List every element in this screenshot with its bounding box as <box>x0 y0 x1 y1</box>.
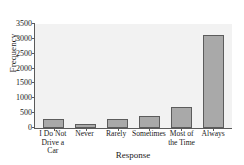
bar-slot <box>70 24 102 128</box>
bar-slot <box>197 24 229 128</box>
bar <box>171 107 192 128</box>
y-tick-label: 3000 <box>16 35 32 43</box>
x-category-label-line: Sometimes <box>132 130 166 139</box>
y-tick-label: 2000 <box>16 65 32 73</box>
bar-slot <box>102 24 134 128</box>
x-category-label-line: the Time <box>166 139 198 148</box>
bar <box>43 119 64 128</box>
plot-area: 0500100015002000250030003500 <box>34 24 232 129</box>
y-tick-label: 2500 <box>16 50 32 58</box>
bar <box>107 119 128 128</box>
y-tick-label: 1000 <box>16 94 32 102</box>
y-tick-label: 0 <box>28 124 32 132</box>
y-tick-label: 3500 <box>16 20 32 28</box>
x-category-label-line: Always <box>197 130 229 139</box>
bars-container <box>35 24 232 128</box>
bar <box>139 116 160 128</box>
bar <box>203 35 224 128</box>
x-axis-title: Response <box>34 150 232 160</box>
x-category-label-line: Rarely <box>100 130 132 139</box>
bar-slot <box>133 24 165 128</box>
bar-slot <box>38 24 70 128</box>
y-tick-label: 500 <box>20 109 32 117</box>
y-tick-label: 1500 <box>16 79 32 87</box>
bar-slot <box>165 24 197 128</box>
x-category-label-line: Never <box>69 130 101 139</box>
bar-chart-figure: Frequency 0500100015002000250030003500 I… <box>0 0 244 165</box>
